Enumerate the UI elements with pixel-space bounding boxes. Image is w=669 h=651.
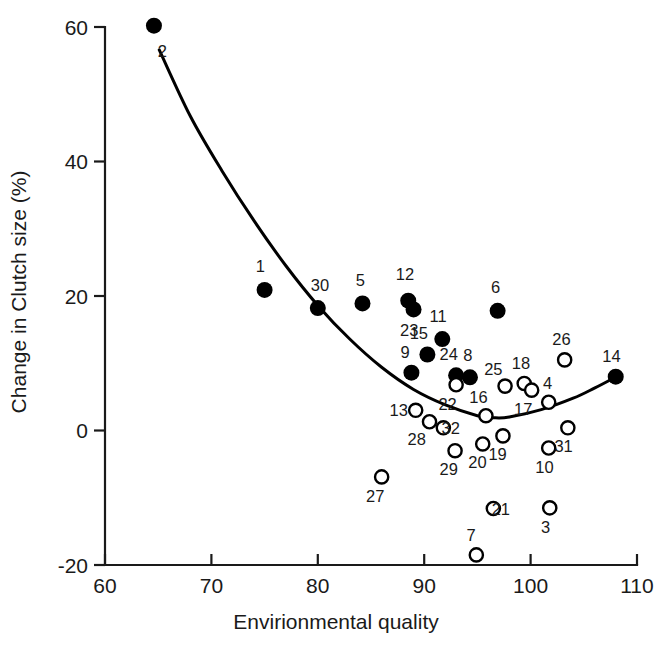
- data-point-label: 13: [389, 401, 407, 419]
- data-point-marker: [608, 369, 624, 385]
- data-point-label: 2: [158, 42, 167, 60]
- data-point-marker: [375, 470, 388, 483]
- data-point-label: 26: [552, 330, 570, 348]
- y-tick-label: 20: [65, 285, 88, 308]
- x-tick-label: 80: [306, 574, 329, 597]
- data-point-marker: [406, 301, 422, 317]
- data-point-marker: [543, 501, 556, 514]
- regression-curve: [159, 50, 619, 418]
- data-point-marker: [525, 384, 538, 397]
- data-point-marker: [257, 282, 273, 298]
- data-point-marker: [490, 303, 506, 319]
- data-point-label: 22: [438, 395, 456, 413]
- data-point-marker: [470, 548, 483, 561]
- data-point-label: 7: [466, 526, 475, 544]
- y-tick-label: 40: [65, 150, 88, 173]
- data-point-label: 18: [512, 354, 530, 372]
- data-point-label: 14: [602, 347, 620, 365]
- y-axis-title: Change in Clutch size (%): [7, 171, 30, 414]
- point-labels-group: 2130512231115692482225181742614161328322…: [158, 42, 621, 545]
- data-point-label: 10: [535, 458, 553, 476]
- data-point-label: 3: [541, 518, 550, 536]
- data-point-label: 30: [311, 276, 329, 294]
- data-point-label: 17: [514, 400, 532, 418]
- data-point-marker: [419, 347, 435, 363]
- data-point-marker: [423, 415, 436, 428]
- data-point-marker: [561, 421, 574, 434]
- data-point-label: 12: [396, 265, 414, 283]
- data-point-label: 8: [463, 346, 472, 364]
- data-point-label: 25: [484, 360, 502, 378]
- data-point-marker: [146, 18, 162, 34]
- data-point-marker: [462, 369, 478, 385]
- data-point-label: 6: [491, 278, 500, 296]
- data-point-marker: [496, 429, 509, 442]
- plot-canvas: 2130512231115692482225181742614161328322…: [0, 0, 669, 651]
- data-point-label: 16: [469, 388, 487, 406]
- data-point-marker: [542, 441, 555, 454]
- data-point-marker: [542, 396, 555, 409]
- data-point-marker: [310, 300, 326, 316]
- data-point-label: 9: [400, 343, 409, 361]
- y-tick-label: 60: [65, 16, 88, 39]
- data-point-label: 19: [488, 445, 506, 463]
- data-point-marker: [479, 409, 492, 422]
- data-point-marker: [403, 365, 419, 381]
- x-tick-label: 90: [413, 574, 436, 597]
- x-tick-label: 60: [93, 574, 116, 597]
- data-point-marker: [498, 380, 511, 393]
- figure-scatter-plot: 2130512231115692482225181742614161328322…: [0, 0, 669, 651]
- data-point-label: 29: [439, 460, 457, 478]
- data-point-label: 24: [439, 345, 457, 363]
- x-tick-label: 100: [513, 574, 548, 597]
- y-tick-label: -20: [58, 554, 88, 577]
- data-point-label: 15: [410, 324, 428, 342]
- data-point-label: 31: [554, 437, 572, 455]
- data-point-label: 5: [356, 271, 365, 289]
- data-point-label: 1: [256, 257, 265, 275]
- fit-curve-group: [159, 50, 619, 418]
- data-point-marker: [476, 437, 489, 450]
- data-point-marker: [558, 353, 571, 366]
- data-point-label: 20: [468, 453, 486, 471]
- x-axis-title: Envirionmental quality: [233, 610, 439, 633]
- data-point-label: 11: [429, 307, 446, 325]
- data-point-label: 21: [492, 500, 510, 518]
- data-point-label: 4: [543, 374, 552, 392]
- data-point-label: 27: [366, 487, 384, 505]
- data-point-label: 28: [408, 430, 426, 448]
- data-point-marker: [354, 295, 370, 311]
- x-tick-label: 110: [620, 574, 653, 597]
- data-point-label: 32: [442, 419, 460, 437]
- data-point-marker: [409, 404, 422, 417]
- data-point-marker: [448, 444, 461, 457]
- data-points-group: [146, 18, 624, 562]
- x-tick-label: 70: [200, 574, 223, 597]
- y-tick-label: 0: [76, 419, 88, 442]
- data-point-marker: [450, 378, 463, 391]
